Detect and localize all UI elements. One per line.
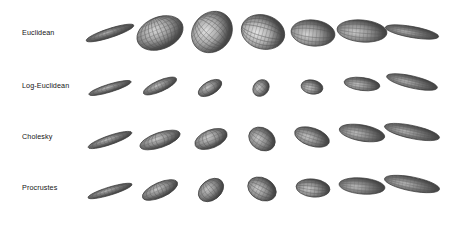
ellipsoid-r0-c2 bbox=[184, 7, 240, 57]
ellipsoid-r0-c3 bbox=[240, 4, 286, 60]
ellipsoid-r2-c4 bbox=[297, 113, 327, 161]
row-label-cholesky: Cholesky bbox=[22, 133, 52, 140]
ellipsoid-r0-c1 bbox=[130, 11, 190, 55]
ellipsoid-r2-c0 bbox=[81, 130, 139, 151]
ellipsoid-r3-c5 bbox=[348, 157, 376, 215]
ellipsoid-r1-c5 bbox=[350, 60, 375, 108]
ellipsoid-r1-c3 bbox=[246, 75, 276, 102]
ellipsoid-r1-c1 bbox=[136, 75, 184, 98]
ellipsoid-r3-c3 bbox=[245, 168, 279, 210]
row-label-euclidean: Euclidean bbox=[22, 29, 54, 36]
row-label-procrustes: Procrustes bbox=[22, 184, 57, 191]
ellipsoid-r2-c5 bbox=[348, 104, 376, 162]
ellipsoid-r2-c3 bbox=[245, 119, 279, 159]
ellipsoid-r3-c4 bbox=[298, 165, 328, 211]
ellipsoid-r3-c1 bbox=[135, 177, 185, 204]
ellipsoid-r0-c5 bbox=[345, 0, 379, 62]
ellipsoid-interpolation-figure: EuclideanLog-EuclideanCholeskyProcrustes bbox=[0, 0, 452, 226]
ellipsoid-r1-c2 bbox=[191, 76, 229, 101]
ellipsoid-r1-c0 bbox=[82, 78, 138, 98]
row-label-log-euclidean: Log-Euclidean bbox=[22, 82, 69, 89]
ellipsoid-r3-c0 bbox=[81, 181, 139, 201]
ellipsoid-r2-c1 bbox=[133, 127, 187, 154]
ellipsoid-r0-c4 bbox=[294, 5, 332, 61]
ellipsoid-r3-c2 bbox=[191, 174, 231, 206]
ellipsoid-r3-c6 bbox=[399, 150, 425, 218]
ellipsoid-r1-c4 bbox=[299, 70, 325, 104]
ellipsoid-r2-c2 bbox=[188, 124, 234, 154]
